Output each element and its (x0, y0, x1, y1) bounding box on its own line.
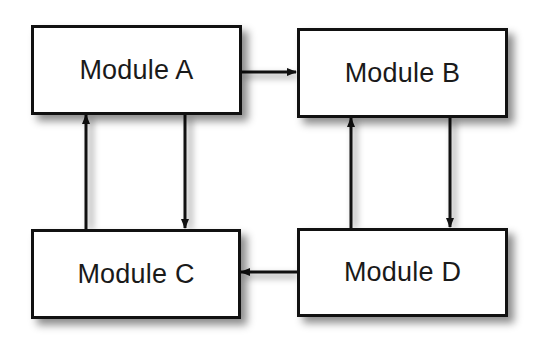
module-d-label: Module D (344, 257, 461, 288)
module-a-node: Module A (31, 25, 242, 115)
module-b-label: Module B (345, 58, 461, 89)
module-d-node: Module D (297, 228, 508, 317)
module-c-label: Module C (77, 259, 194, 290)
module-c-node: Module C (31, 229, 241, 319)
module-b-node: Module B (297, 28, 508, 118)
module-a-label: Module A (79, 55, 193, 86)
